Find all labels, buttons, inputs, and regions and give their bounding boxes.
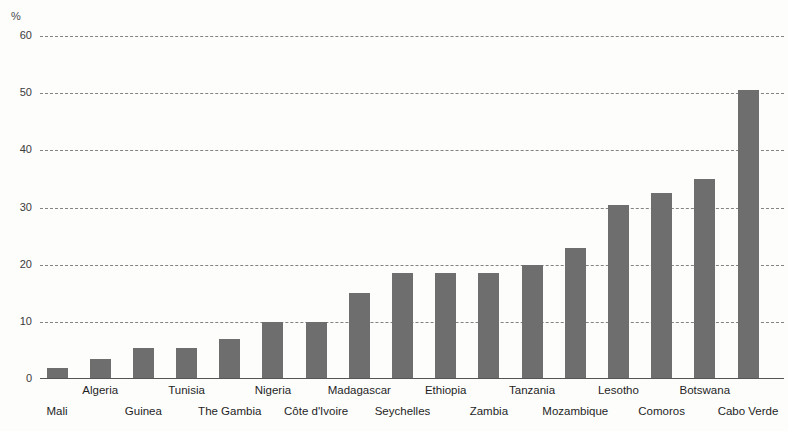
y-axis-tick-label: 10 xyxy=(0,315,32,327)
bar xyxy=(738,90,759,379)
bar xyxy=(694,179,715,379)
x-axis-tick-label: Guinea xyxy=(125,405,162,417)
x-axis-tick-label: Lesotho xyxy=(598,384,639,396)
bar xyxy=(306,322,327,379)
bar xyxy=(651,193,672,379)
x-axis-tick-label: Côte d'Ivoire xyxy=(284,405,348,417)
x-axis-tick-label: Nigeria xyxy=(255,384,291,396)
bar-chart: % 6050403020100 MaliAlgeriaGuineaTunisia… xyxy=(0,0,788,431)
x-axis-tick-label: The Gambia xyxy=(198,405,261,417)
x-axis-tick-label: Tunisia xyxy=(168,384,205,396)
x-axis-tick-label: Zambia xyxy=(470,405,508,417)
x-axis-tick-label: Algeria xyxy=(82,384,118,396)
y-axis-tick-label: 0 xyxy=(0,372,32,384)
bar xyxy=(478,273,499,379)
y-axis-tick-label: 20 xyxy=(0,258,32,270)
bars-group xyxy=(40,36,784,379)
x-axis-tick-label: Mali xyxy=(46,405,67,417)
bar xyxy=(435,273,456,379)
bar xyxy=(349,293,370,379)
bar xyxy=(392,273,413,379)
y-axis-tick-label: 30 xyxy=(0,201,32,213)
x-axis-tick-label: Tanzania xyxy=(509,384,555,396)
x-axis-tick-labels: MaliAlgeriaGuineaTunisiaThe GambiaNigeri… xyxy=(40,379,784,431)
x-axis-tick-label: Ethiopia xyxy=(425,384,467,396)
y-axis-tick-label: 40 xyxy=(0,143,32,155)
plot-area: 6050403020100 xyxy=(40,36,784,379)
bar xyxy=(262,322,283,379)
bar xyxy=(219,339,240,379)
bar xyxy=(608,205,629,379)
y-axis-tick-label: 60 xyxy=(0,29,32,41)
y-axis-tick-label: 50 xyxy=(0,86,32,98)
x-axis-tick-label: Mozambique xyxy=(542,405,608,417)
x-axis-tick-label: Seychelles xyxy=(375,405,431,417)
bar xyxy=(522,265,543,379)
x-axis-tick-label: Madagascar xyxy=(328,384,391,396)
y-axis-unit-label: % xyxy=(11,10,21,22)
bar xyxy=(176,348,197,379)
bar xyxy=(565,248,586,379)
x-axis-tick-label: Cabo Verde xyxy=(718,405,779,417)
bar xyxy=(90,359,111,379)
x-axis-tick-label: Comoros xyxy=(638,405,685,417)
bar xyxy=(133,348,154,379)
x-axis-tick-label: Botswana xyxy=(680,384,731,396)
